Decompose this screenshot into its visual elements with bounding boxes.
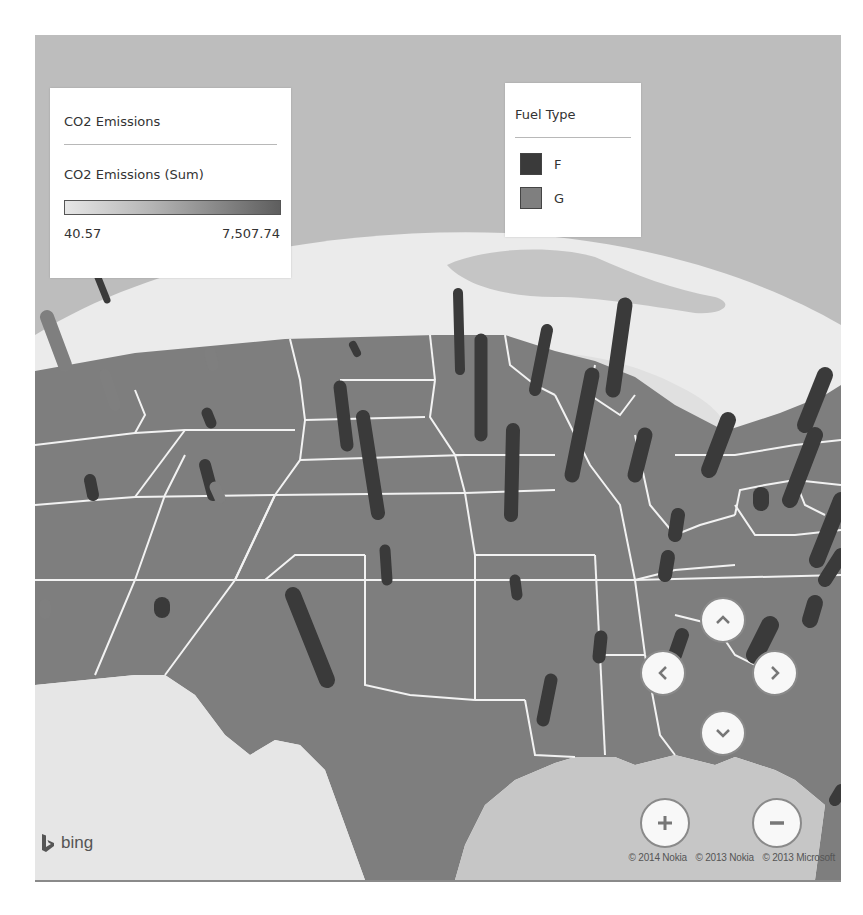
minus-icon xyxy=(766,812,788,834)
map-viewport[interactable]: CO2 Emissions CO2 Emissions (Sum) 40.57 … xyxy=(35,35,841,882)
emission-column-fuel-f[interactable] xyxy=(207,413,211,423)
category-legend-title: Fuel Type xyxy=(515,107,576,122)
color-legend-measure: CO2 Emissions (Sum) xyxy=(64,167,204,182)
emission-column-fuel-f[interactable] xyxy=(543,680,551,720)
chevron-down-icon xyxy=(712,722,734,744)
emission-column-fuel-f[interactable] xyxy=(385,550,387,580)
legend-swatch xyxy=(520,187,542,209)
emission-column-fuel-f[interactable] xyxy=(635,435,645,475)
emission-column-fuel-f[interactable] xyxy=(515,580,517,595)
emission-column-fuel-f[interactable] xyxy=(353,345,357,353)
emission-column-fuel-g[interactable] xyxy=(215,487,220,498)
color-legend-title: CO2 Emissions xyxy=(64,114,160,129)
color-scale-min-label: 40.57 xyxy=(64,226,101,241)
category-legend-panel: Fuel Type F G xyxy=(505,83,641,237)
legend-item-label: F xyxy=(554,157,561,172)
chevron-left-icon xyxy=(652,662,674,684)
pan-right-button[interactable] xyxy=(752,650,798,696)
emission-column-fuel-f[interactable] xyxy=(511,430,513,515)
emission-column-fuel-f[interactable] xyxy=(665,557,668,575)
copyright-microsoft-2013: © 2013 Microsoft xyxy=(762,852,835,863)
emission-column-fuel-f[interactable] xyxy=(675,515,678,535)
copyright-nokia-2014: © 2014 Nokia xyxy=(629,852,687,863)
legend-divider xyxy=(64,144,277,145)
color-legend-panel: CO2 Emissions CO2 Emissions (Sum) 40.57 … xyxy=(50,88,291,278)
legend-swatch xyxy=(520,153,542,175)
emission-column-fuel-f[interactable] xyxy=(599,637,601,657)
emission-column-fuel-f[interactable] xyxy=(458,293,460,370)
legend-divider xyxy=(515,137,631,138)
color-scale-gradient xyxy=(64,200,281,215)
emission-column-fuel-f[interactable] xyxy=(90,480,93,495)
pan-up-button[interactable] xyxy=(700,597,746,643)
pan-left-button[interactable] xyxy=(640,650,686,696)
emission-column-fuel-f[interactable] xyxy=(810,603,815,620)
zoom-out-button[interactable] xyxy=(752,798,802,848)
pan-down-button[interactable] xyxy=(700,710,746,756)
copyright-nokia-2013: © 2013 Nokia xyxy=(696,852,754,863)
chevron-right-icon xyxy=(764,662,786,684)
zoom-in-button[interactable] xyxy=(640,798,690,848)
chevron-up-icon xyxy=(712,609,734,631)
plus-icon xyxy=(654,812,676,834)
map-copyright: © 2014 Nokia © 2013 Nokia © 2013 Microso… xyxy=(629,852,835,863)
bing-logo-text: bing xyxy=(61,833,93,853)
bing-logo[interactable]: bing xyxy=(41,833,93,853)
emission-column-fuel-f[interactable] xyxy=(675,635,682,655)
emission-column-fuel-g[interactable] xyxy=(210,353,213,365)
color-scale-max-label: 7,507.74 xyxy=(222,226,280,241)
legend-item-label: G xyxy=(554,191,564,206)
emission-column-fuel-f[interactable] xyxy=(835,790,841,800)
bing-logo-icon xyxy=(41,833,55,853)
legend-item-fuel-g[interactable]: G xyxy=(520,187,564,209)
legend-item-fuel-f[interactable]: F xyxy=(520,153,561,175)
emission-column-fuel-f[interactable] xyxy=(340,387,347,445)
